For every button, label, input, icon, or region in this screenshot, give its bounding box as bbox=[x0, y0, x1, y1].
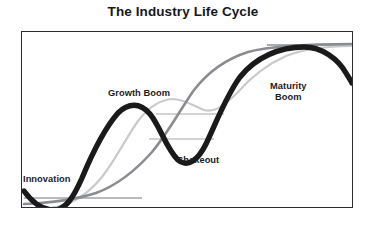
mid-gray-s-curve bbox=[24, 44, 353, 204]
annotation-growth-boom: Growth Boom bbox=[108, 88, 170, 99]
chart-title: The Industry Life Cycle bbox=[0, 4, 366, 19]
industry-life-cycle-figure: The Industry Life Cycle Innovation Growt… bbox=[0, 0, 366, 229]
annotation-shakeout: Shakeout bbox=[177, 155, 219, 166]
annotation-maturity-boom-line1: Maturity bbox=[270, 81, 307, 92]
reference-lines-group bbox=[24, 45, 353, 198]
industry-life-cycle-main-curve bbox=[24, 47, 352, 208]
annotation-maturity-boom-line2: Boom bbox=[270, 92, 307, 103]
light-gray-s-curve bbox=[50, 46, 353, 208]
plot-area-frame: Innovation Growth Boom Shakeout Maturity… bbox=[21, 31, 353, 208]
life-cycle-curves-svg bbox=[22, 32, 353, 208]
annotation-innovation: Innovation bbox=[23, 174, 71, 185]
annotation-maturity-boom: Maturity Boom bbox=[270, 81, 307, 103]
